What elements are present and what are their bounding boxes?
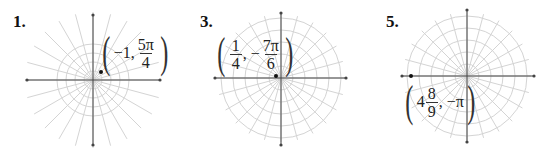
axis-arrow-icon	[465, 8, 468, 11]
axis-arrow-icon	[532, 74, 535, 77]
left-paren: (	[405, 80, 413, 124]
polar-grid-5	[0, 0, 547, 151]
point-label: ( 4 8 9 , −π )	[402, 80, 478, 124]
polar-figure-5: 5. ( 4 8 9 , −π )	[0, 0, 547, 151]
fraction: 8 9	[426, 85, 438, 120]
axis-arrow-icon	[465, 140, 468, 143]
axis-arrow-icon	[400, 74, 403, 77]
exercise-number: 5.	[386, 12, 399, 32]
right-paren: )	[467, 80, 475, 124]
